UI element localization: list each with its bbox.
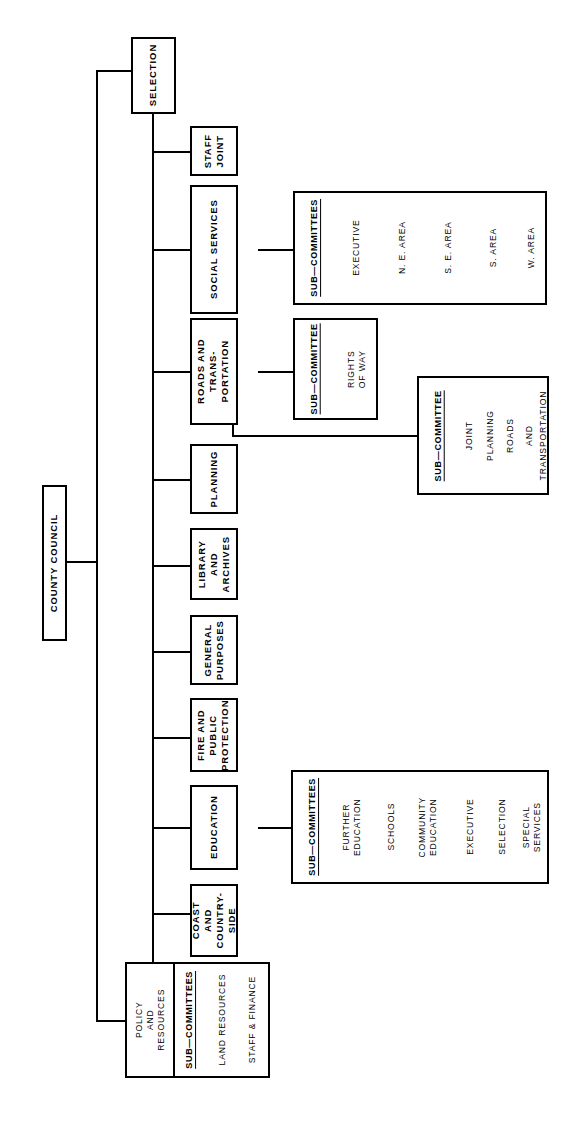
node-county-council[interactable]: COUNTY COUNCIL [42, 485, 67, 641]
node-selection-label-wrap: SELECTION [133, 39, 174, 112]
policy-subcommittee-item-land-resources: LAND RESOURCES [217, 974, 228, 1066]
node-policy-and-resources[interactable]: POLICY AND RESOURCES SUB—COMMITTEES LAND… [125, 962, 270, 1078]
social-services-subcommittee-item-wrap: S. AREA [473, 193, 515, 303]
node-coast-and-countryside-label: COAST AND COUNTRY- SIDE [190, 892, 239, 948]
connector-spine-to-social-services [152, 249, 190, 251]
node-social-services-label: SOCIAL SERVICES [208, 200, 220, 300]
policy-subcommittees-heading: SUB—COMMITTEES [184, 971, 196, 1069]
node-staff-joint-label-wrap: STAFF JOINT [192, 128, 236, 174]
node-staff-joint[interactable]: STAFF JOINT [190, 126, 238, 176]
node-policy-and-resources-label: POLICY AND RESOURCES [134, 989, 168, 1051]
social-services-subcommittee-item-ne-area: N. E. AREA [396, 222, 407, 275]
group-joint-planning-subcommittee[interactable]: SUB—COMMITTEE JOINT PLANNING ROADS AND T… [417, 376, 549, 495]
education-subcommittee-item-wrap: FURTHER EDUCATION [331, 772, 373, 882]
node-county-council-label-wrap: COUNTY COUNCIL [44, 487, 65, 639]
group-education-subcommittees[interactable]: SUB—COMMITTEES FURTHER EDUCATION SCHOOLS… [291, 770, 549, 884]
connector-social-services-to-subcommittees [258, 249, 294, 251]
node-education-label-wrap: EDUCATION [192, 787, 236, 868]
node-education[interactable]: EDUCATION [190, 785, 238, 870]
social-services-subcommittee-item-se-area: S. E. AREA [442, 222, 453, 274]
node-planning[interactable]: PLANNING [190, 444, 238, 514]
node-roads-label-wrap: ROADS AND TRANS- PORTATION [192, 320, 236, 423]
node-coast-and-countryside[interactable]: COAST AND COUNTRY- SIDE [190, 884, 238, 957]
education-subcommittee-item-schools: SCHOOLS [386, 803, 397, 851]
connector-spine-to-coast [152, 913, 190, 915]
joint-planning-item-wrap: PLANNING [479, 378, 501, 493]
connector-committee-spine [152, 113, 154, 964]
rights-of-way-heading-wrap: SUB—COMMITTEE [299, 320, 331, 418]
org-chart-canvas: COUNTY COUNCIL SELECTION STAFF JOINT SOC… [0, 0, 587, 1121]
node-county-council-label: COUNTY COUNCIL [48, 514, 60, 612]
policy-subcommittee-item-wrap: LAND RESOURCES [207, 964, 239, 1076]
education-subcommittees-heading: SUB—COMMITTEES [307, 778, 319, 876]
node-planning-label-wrap: PLANNING [192, 446, 236, 512]
connector-education-to-subcommittees [258, 827, 292, 829]
node-fire-and-public-protection[interactable]: FIRE AND PUBLIC PROTECTION [190, 698, 238, 772]
connector-spine-to-planning [152, 479, 190, 481]
joint-planning-item-wrap: TRANSPORTATION [533, 378, 555, 493]
connector-spine-to-fire [152, 737, 190, 739]
node-education-label: EDUCATION [208, 796, 220, 860]
rights-of-way-subcommittee-item: RIGHTS OF WAY [346, 350, 368, 388]
node-social-services-label-wrap: SOCIAL SERVICES [192, 187, 236, 312]
connector-rail-to-policy [96, 1020, 127, 1022]
social-services-subcommittees-heading-wrap: SUB—COMMITTEES [299, 193, 331, 303]
connector-spine-to-library [152, 565, 190, 567]
policy-subcommittee-item-staff-finance: STAFF & FINANCE [247, 976, 258, 1064]
node-library-and-archives-label: LIBRARY AND ARCHIVES [196, 536, 232, 592]
connector-rail-to-selection [96, 70, 132, 72]
group-social-services-subcommittees[interactable]: SUB—COMMITTEES EXECUTIVE N. E. AREA S. E… [293, 191, 547, 305]
node-fire-and-public-protection-label: FIRE AND PUBLIC PROTECTION [196, 699, 232, 770]
social-services-subcommittee-item-s-area: S. AREA [488, 228, 499, 267]
education-subcommittee-item-wrap: COMMUNITY EDUCATION [407, 772, 449, 882]
education-subcommittee-item-executive: EXECUTIVE [464, 799, 475, 855]
node-policy-and-resources-label-wrap: POLICY AND RESOURCES [127, 964, 175, 1076]
node-selection[interactable]: SELECTION [131, 37, 176, 114]
education-subcommittee-item-special-services: SPECIAL SERVICES [521, 802, 543, 852]
node-coast-label-wrap: COAST AND COUNTRY- SIDE [192, 886, 236, 955]
node-library-label-wrap: LIBRARY AND ARCHIVES [192, 530, 236, 598]
rights-of-way-subcommittee-heading: SUB—COMMITTEE [309, 323, 321, 414]
social-services-subcommittee-item-executive: EXECUTIVE [350, 220, 361, 276]
node-general-purposes[interactable]: GENERAL PURPOSES [190, 615, 238, 685]
connector-run-to-joint-planning [232, 435, 418, 437]
connector-spine-to-general-purposes [152, 651, 190, 653]
joint-planning-item-wrap: JOINT [459, 378, 481, 493]
node-library-and-archives[interactable]: LIBRARY AND ARCHIVES [190, 528, 238, 600]
node-fire-label-wrap: FIRE AND PUBLIC PROTECTION [192, 700, 236, 770]
social-services-subcommittee-item-wrap: W. AREA [511, 193, 553, 303]
social-services-subcommittee-item-wrap: N. E. AREA [381, 193, 423, 303]
joint-planning-subcommittee-heading: SUB—COMMITTEE [433, 390, 445, 481]
connector-spine-to-roads [152, 371, 190, 373]
node-roads-and-transportation[interactable]: ROADS AND TRANS- PORTATION [190, 318, 238, 425]
node-planning-label: PLANNING [208, 451, 220, 508]
education-subcommittee-item-further-education: FURTHER EDUCATION [341, 798, 363, 856]
education-subcommittee-item-selection: SELECTION [496, 799, 507, 855]
joint-planning-subcommittee-item-joint: JOINT [464, 421, 475, 450]
social-services-subcommittees-heading: SUB—COMMITTEES [309, 199, 321, 297]
node-social-services[interactable]: SOCIAL SERVICES [190, 185, 238, 314]
node-general-purposes-label: GENERAL PURPOSES [202, 620, 226, 680]
connector-left-rail [96, 70, 98, 1022]
social-services-subcommittee-item-wrap: EXECUTIVE [335, 193, 377, 303]
joint-planning-subcommittee-item-roads: ROADS [504, 418, 515, 453]
connector-spine-to-education [152, 827, 190, 829]
education-subcommittee-item-community-education: COMMUNITY EDUCATION [417, 797, 439, 858]
education-subcommittee-item-wrap: SPECIAL SERVICES [511, 772, 553, 882]
social-services-subcommittee-item-w-area: W. AREA [526, 227, 537, 268]
connector-roads-to-rights-of-way [258, 371, 294, 373]
connector-council-stub [66, 561, 98, 563]
policy-subcommittee-item-wrap: STAFF & FINANCE [237, 964, 269, 1076]
node-roads-and-transportation-label: ROADS AND TRANS- PORTATION [196, 339, 232, 404]
group-rights-of-way-subcommittee[interactable]: SUB—COMMITTEE RIGHTS OF WAY [293, 318, 378, 420]
joint-planning-heading-wrap: SUB—COMMITTEE [423, 378, 455, 493]
education-subcommittees-heading-wrap: SUB—COMMITTEES [297, 772, 329, 882]
rights-of-way-item-wrap: RIGHTS OF WAY [335, 320, 379, 418]
policy-subcommittees-heading-wrap: SUB—COMMITTEES [175, 964, 205, 1076]
node-staff-joint-label: STAFF JOINT [202, 134, 226, 168]
joint-planning-subcommittee-item-transportation: TRANSPORTATION [538, 391, 549, 481]
joint-planning-subcommittee-item-planning: PLANNING [484, 410, 495, 461]
social-services-subcommittee-item-wrap: S. E. AREA [427, 193, 469, 303]
connector-spine-to-staff-joint [152, 151, 190, 153]
node-general-purposes-label-wrap: GENERAL PURPOSES [192, 617, 236, 683]
